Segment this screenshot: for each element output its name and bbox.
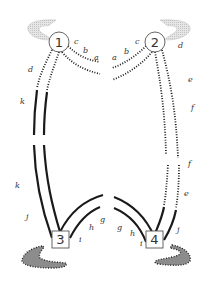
label-right-h: h — [130, 229, 135, 238]
node-2-label: 2 — [151, 35, 159, 50]
label-left-g: g — [100, 215, 105, 224]
label-left-j: j — [24, 212, 29, 221]
node-4-label: 4 — [150, 232, 158, 247]
node-1: 1 — [49, 32, 69, 52]
node-2: 2 — [145, 32, 165, 52]
path-right-outer-dotted-lower — [176, 165, 179, 208]
blob-shape-bottom-left — [22, 246, 66, 268]
label-right-j: j — [175, 225, 180, 234]
label-right-f-lower: f — [187, 159, 193, 168]
wisp-shape-top-right — [160, 20, 190, 40]
label-right-c: c — [135, 37, 140, 46]
label-right-b: b — [124, 47, 129, 56]
label-right-a: a — [112, 53, 117, 62]
node-3: 3 — [52, 231, 69, 248]
label-right-f-upper: f — [190, 103, 196, 112]
label-right-e-upper: e — [188, 75, 193, 84]
node-4: 4 — [146, 231, 163, 248]
path-right-inner-dotted-lower — [164, 165, 168, 205]
path-left-inner-solid-upper — [44, 92, 47, 135]
label-left-h: h — [89, 223, 94, 232]
path-right-outer-dotted-upper — [162, 50, 178, 158]
label-right-i: i — [140, 239, 143, 248]
arc-left-bottom-outer-solid — [60, 195, 103, 232]
label-left-i: i — [79, 235, 82, 244]
label-left-k-lower: k — [15, 181, 20, 190]
label-left-b: b — [83, 46, 88, 55]
path-right-inner-dotted-upper — [155, 52, 166, 155]
label-right-g: g — [117, 223, 122, 232]
node-3-label: 3 — [56, 232, 64, 247]
label-left-d: d — [28, 65, 33, 74]
node-1-label: 1 — [55, 35, 63, 50]
pathway-diagram: 1 2 3 4 c b a d k k j i h g a b c d e f … — [0, 0, 204, 288]
path-right-outer-solid — [164, 210, 176, 240]
label-left-a: a — [94, 53, 99, 62]
label-right-e-lower: e — [184, 189, 189, 198]
label-left-k-upper: k — [20, 97, 25, 106]
label-left-c: c — [74, 37, 79, 46]
label-right-d: d — [178, 41, 183, 50]
path-left-outer-solid-upper — [34, 90, 37, 135]
